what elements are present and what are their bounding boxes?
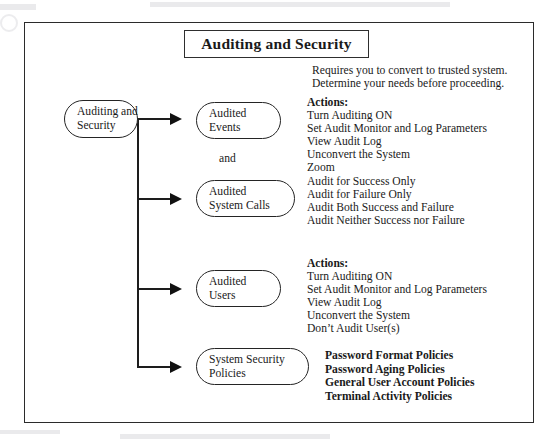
intro-line-2: Determine your needs before proceeding.	[307, 77, 507, 90]
policy-item[interactable]: Terminal Activity Policies	[325, 390, 475, 404]
action-item[interactable]: Turn Auditing ON	[307, 109, 487, 122]
action-item[interactable]: Don’t Audit User(s)	[307, 322, 487, 335]
scan-artifact	[120, 434, 330, 439]
actions-heading: Actions:	[307, 257, 487, 270]
page-title: Auditing and Security	[184, 30, 369, 58]
node-audited-system-calls[interactable]: Audited System Calls	[196, 180, 295, 217]
node-audited-users[interactable]: Audited Users	[196, 270, 281, 307]
arrowhead-icon	[170, 283, 182, 295]
intro-line-1: Requires you to convert to trusted syste…	[307, 64, 507, 77]
node-line-1: Audited	[209, 107, 280, 121]
policy-item[interactable]: Password Aging Policies	[325, 363, 475, 377]
scan-artifact	[0, 430, 60, 434]
intro-note: Requires you to convert to trusted syste…	[307, 64, 507, 90]
node-line-2: Events	[209, 121, 280, 135]
actions-heading: Actions:	[307, 96, 487, 109]
node-auditing-and-security[interactable]: Auditing and Security	[64, 100, 138, 138]
action-item[interactable]: View Audit Log	[307, 296, 487, 309]
action-item[interactable]: Set Audit Monitor and Log Parameters	[307, 283, 487, 296]
actions-list-users: Actions: Turn Auditing ON Set Audit Moni…	[307, 257, 487, 336]
action-item[interactable]: Zoom	[307, 161, 487, 174]
connector-branch-audited-events	[137, 118, 171, 120]
node-line-2: System Calls	[209, 199, 294, 213]
node-line-2: Users	[209, 289, 280, 303]
arrowhead-icon	[170, 113, 182, 125]
action-item[interactable]: Turn Auditing ON	[307, 270, 487, 283]
connector-trunk	[137, 118, 139, 366]
action-item[interactable]: Audit for Success Only	[307, 175, 487, 188]
node-line-1: System Security	[209, 353, 308, 367]
policy-item[interactable]: General User Account Policies	[325, 376, 475, 390]
connector-branch-audited-users	[137, 288, 171, 290]
arrowhead-icon	[170, 361, 182, 373]
connector-branch-audited-system-calls	[137, 198, 171, 200]
arrowhead-icon	[170, 193, 182, 205]
node-line-2: Policies	[209, 367, 308, 381]
action-item[interactable]: View Audit Log	[307, 135, 487, 148]
scan-artifact	[0, 4, 36, 10]
node-line-1: Audited	[209, 275, 280, 289]
node-line-2: Security	[77, 119, 137, 133]
scan-artifact	[0, 14, 18, 32]
action-item[interactable]: Unconvert the System	[307, 309, 487, 322]
action-item[interactable]: Audit Both Success and Failure	[307, 201, 487, 214]
connector-label-and: and	[219, 152, 236, 165]
action-item[interactable]: Audit for Failure Only	[307, 188, 487, 201]
action-item[interactable]: Set Audit Monitor and Log Parameters	[307, 122, 487, 135]
scan-artifact	[150, 2, 450, 7]
connector-branch-system-security-policies	[137, 366, 171, 368]
action-item[interactable]: Unconvert the System	[307, 148, 487, 161]
node-line-1: Auditing and	[77, 105, 137, 119]
node-audited-events[interactable]: Audited Events	[196, 102, 281, 139]
policies-list: Password Format Policies Password Aging …	[325, 349, 475, 403]
policy-item[interactable]: Password Format Policies	[325, 349, 475, 363]
node-line-1: Audited	[209, 185, 294, 199]
page-title-text: Auditing and Security	[201, 35, 352, 53]
action-item[interactable]: Audit Neither Success nor Failure	[307, 214, 487, 227]
node-system-security-policies[interactable]: System Security Policies	[196, 348, 309, 385]
actions-list-events: Actions: Turn Auditing ON Set Audit Moni…	[307, 96, 487, 227]
